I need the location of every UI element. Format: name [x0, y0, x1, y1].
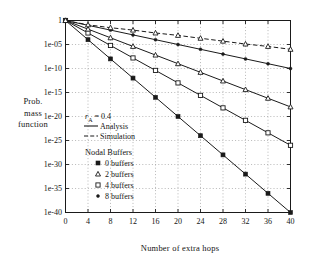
series-2-point-10: [288, 104, 293, 109]
series-2-point-5: [176, 61, 181, 66]
series-0-point-4: [154, 95, 158, 99]
y-tick-label-8: 1e-40: [20, 208, 62, 217]
legend-label-analysis: Analysis: [100, 122, 128, 131]
legend-parameter-annotation: rA = 0.4: [85, 112, 111, 123]
series-0-point-9: [266, 191, 270, 195]
x-tick-label-2: 8: [99, 217, 123, 226]
series-4-point-7: [221, 39, 226, 44]
series-4-point-1: [86, 22, 91, 27]
series-0-point-10: [289, 211, 293, 215]
y-tick-label-4: 1e-20: [20, 112, 62, 121]
series-3-point-10: [289, 67, 292, 70]
x-tick-label-6: 24: [189, 217, 213, 226]
legend-marker-2: [96, 183, 100, 187]
x-tick-label-0: 0: [54, 217, 78, 226]
legend-parameter-value: = 0.4: [94, 112, 111, 121]
series-1-point-8: [243, 118, 247, 122]
series-1-point-4: [153, 68, 157, 72]
series-0-point-1: [86, 38, 90, 42]
series-2-point-2: [108, 35, 113, 40]
series-2: [63, 18, 293, 109]
series-4-point-6: [198, 36, 203, 41]
series-1-point-7: [221, 106, 225, 110]
series-3-point-4: [154, 38, 157, 41]
series-3-point-6: [199, 48, 202, 51]
series-1-point-2: [108, 43, 112, 47]
x-tick-label-8: 32: [234, 217, 258, 226]
series-0-point-8: [244, 172, 248, 176]
series-3-point-9: [267, 62, 270, 65]
series-0-point-7: [221, 153, 225, 157]
x-tick-label-5: 20: [166, 217, 190, 226]
legend-parameter-subscript: A: [88, 117, 92, 123]
y-tick-label-3: 1e-15: [20, 88, 62, 97]
x-tick-label-10: 40: [279, 217, 303, 226]
legend-label-0-buffers: 0 buffers: [105, 159, 134, 168]
y-tick-label-5: 1e-25: [20, 136, 62, 145]
series-0-point-3: [131, 76, 135, 80]
series-2-point-9: [266, 96, 271, 101]
legend-label-8-buffers: 8 buffers: [105, 192, 134, 201]
series-3-point-3: [132, 33, 135, 36]
y-axis-title-line-3: function: [4, 119, 62, 131]
series-1-point-5: [176, 81, 180, 85]
y-tick-label-2: 1e-10: [20, 64, 62, 73]
x-axis-title: Number of extra hops: [60, 243, 300, 253]
series-3-point-5: [177, 43, 180, 46]
series-4-point-8: [243, 41, 248, 46]
x-tick-label-4: 16: [144, 217, 168, 226]
series-1-point-9: [266, 131, 270, 135]
y-axis-title-line-1: Prob.: [4, 96, 62, 108]
y-tick-label-1: 1e-05: [20, 40, 62, 49]
legend-label-4-buffers: 4 buffers: [105, 181, 134, 190]
series-2-point-4: [153, 52, 158, 57]
x-tick-label-1: 4: [76, 217, 100, 226]
series-1-point-10: [288, 143, 292, 147]
series-2-point-7: [221, 78, 226, 83]
legend-label-simulation: Simulation: [100, 132, 135, 141]
chart-figure: Prob. mass function Number of extra hops…: [0, 0, 310, 264]
series-2-point-8: [243, 87, 248, 92]
series-0-point-6: [199, 134, 203, 138]
legend-title-nodal-buffers: Nodal Buffers: [85, 148, 132, 157]
series-0-point-2: [109, 57, 113, 61]
x-tick-label-7: 28: [211, 217, 235, 226]
series-4-point-2: [108, 25, 113, 30]
x-tick-label-9: 36: [256, 217, 280, 226]
series-3-point-7: [222, 53, 225, 56]
legend-label-2-buffers: 2 buffers: [105, 170, 134, 179]
series-1-point-3: [131, 56, 135, 60]
legend-marker-1: [96, 171, 101, 176]
series-4-point-10: [288, 47, 293, 52]
series-2-point-6: [198, 70, 203, 75]
x-tick-label-3: 12: [121, 217, 145, 226]
series-4-point-5: [176, 33, 181, 38]
y-tick-label-6: 1e-30: [20, 160, 62, 169]
y-tick-label-0: 1: [20, 16, 62, 25]
series-4-point-4: [153, 30, 158, 35]
series-3-point-8: [244, 57, 247, 60]
legend-marker-3: [97, 195, 100, 198]
series-0-point-5: [176, 115, 180, 119]
series-2-point-3: [131, 44, 136, 49]
series-4-point-9: [266, 44, 271, 49]
series-1-point-6: [198, 93, 202, 97]
y-tick-label-7: 1e-35: [20, 184, 62, 193]
series-4-point-3: [131, 28, 136, 33]
legend-marker-0: [96, 161, 100, 165]
legend-marker-swatches: [84, 126, 101, 198]
